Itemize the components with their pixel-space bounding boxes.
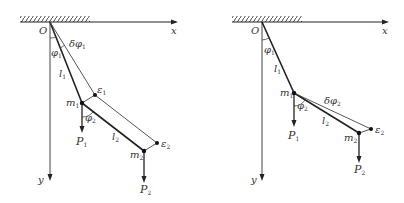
label-phi2: φ2 — [297, 100, 308, 112]
label-P2: P2 — [353, 163, 365, 176]
label-l1: l1 — [274, 63, 281, 75]
double-pendulum-diagram: O x y φ1 δφ1 l1 ε1 m1 φ2 l2 ε2 m2 P1 P2 — [0, 0, 404, 203]
left-panel: O x y φ1 δφ1 l1 ε1 m1 φ2 l2 ε2 m2 P1 P2 — [20, 16, 178, 196]
x-axis-arrow-icon — [382, 20, 389, 25]
label-m2: m2 — [130, 149, 143, 161]
force-P2-arrow-icon — [142, 176, 147, 183]
angle-arc-delta-phi — [60, 45, 65, 48]
label-m1: m1 — [66, 97, 79, 109]
label-y-axis: y — [250, 174, 257, 185]
rod-l1 — [262, 22, 294, 93]
mass-m2 — [142, 149, 146, 153]
label-delta-phi: δφ2 — [324, 95, 341, 107]
displaced-rod-l2 — [95, 95, 157, 143]
label-x-axis: x — [382, 25, 388, 36]
rod-l1 — [50, 22, 82, 103]
y-axis-arrow-icon — [260, 174, 265, 181]
label-eps2: ε2 — [375, 124, 384, 136]
displacement-eps1 — [82, 95, 95, 103]
label-origin: O — [39, 25, 47, 36]
label-eps1: ε1 — [97, 84, 106, 96]
label-y-axis: y — [37, 174, 44, 185]
mass-m2 — [357, 131, 361, 135]
label-l2: l2 — [112, 131, 119, 143]
ceiling-hatch — [20, 16, 90, 22]
mass-m1 — [80, 101, 84, 105]
label-eps2: ε2 — [161, 138, 170, 150]
displacement-eps2 — [144, 143, 157, 151]
force-P1-arrow-icon — [292, 120, 297, 127]
label-P2: P2 — [139, 183, 151, 196]
label-P1: P1 — [287, 129, 299, 142]
label-P1: P1 — [75, 135, 87, 148]
label-l1: l1 — [59, 68, 66, 80]
label-phi2: φ2 — [85, 112, 96, 124]
rod-l2 — [82, 103, 144, 151]
force-P2-arrow-icon — [357, 156, 362, 163]
displaced-rod-l1 — [50, 22, 95, 95]
label-m2: m2 — [344, 132, 357, 144]
label-l2: l2 — [322, 115, 329, 127]
right-panel: O x y φ1 l1 m1 φ2 δφ2 l2 ε2 m2 P1 P2 — [232, 16, 389, 185]
label-x-axis: x — [171, 25, 177, 36]
point-eps2 — [369, 127, 373, 131]
y-axis-arrow-icon — [48, 174, 53, 181]
label-delta-phi: δφ1 — [69, 38, 86, 50]
point-eps2 — [155, 141, 159, 145]
ceiling-hatch — [232, 16, 302, 22]
angle-arc-phi1 — [262, 38, 269, 40]
angle-arc-phi1 — [50, 37, 56, 38]
force-P1-arrow-icon — [80, 126, 85, 133]
x-axis-arrow-icon — [171, 20, 178, 25]
label-origin: O — [251, 25, 259, 36]
